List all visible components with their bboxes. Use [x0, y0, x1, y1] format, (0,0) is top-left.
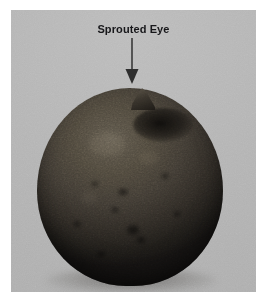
down-arrow-icon: [121, 38, 143, 86]
potato-skin-texture: [37, 88, 223, 286]
potato-body: [37, 88, 223, 286]
annotation-label-sprouted-eye: Sprouted Eye: [11, 23, 256, 35]
figure-root: Sprouted Eye: [0, 0, 267, 302]
potato-eye-cluster: [133, 108, 193, 142]
photograph-plate: Sprouted Eye: [11, 10, 256, 292]
